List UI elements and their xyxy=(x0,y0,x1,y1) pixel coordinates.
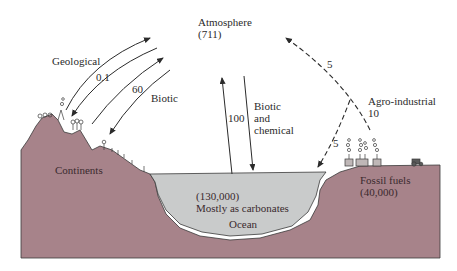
to-atmosphere-value: 5 xyxy=(327,58,333,70)
geological-value: 0.1 xyxy=(96,71,110,83)
agro-industrial-label: Agro-industrial 10 xyxy=(368,95,436,119)
biotic-chemical-line-2: and xyxy=(254,112,294,124)
biotic-chemical-label: Biotic and chemical xyxy=(254,100,294,136)
fossil-fuels-title: Fossil fuels xyxy=(360,174,410,186)
atmosphere-title: Atmosphere xyxy=(198,16,252,28)
biotic-chemical-line-1: Biotic xyxy=(254,100,294,112)
agro-industrial-to-ocean-arrow xyxy=(318,100,350,167)
ocean-note: Mostly as carbonates xyxy=(196,202,289,214)
carbon-cycle-diagram xyxy=(0,0,457,271)
atmosphere-value: (711) xyxy=(198,28,221,40)
biotic-chemical-line-3: chemical xyxy=(254,124,294,136)
continents-label: Continents xyxy=(55,164,103,176)
to-ocean-value: 5 xyxy=(333,137,339,149)
ocean-value: (130,000) xyxy=(196,190,239,202)
atmosphere-to-ocean-arrow xyxy=(244,76,253,170)
geological-label: Geological xyxy=(52,55,100,67)
agro-industrial-to-atmosphere-arrow xyxy=(286,38,370,130)
fossil-fuels-value: (40,000) xyxy=(360,186,398,198)
fossil-fuels-label: Fossil fuels (40,000) xyxy=(360,174,410,198)
agro-industrial-value: 10 xyxy=(368,107,379,119)
factory-icon xyxy=(345,139,381,166)
atmosphere-label: Atmosphere (711) xyxy=(198,16,252,40)
biotic-land-value: 60 xyxy=(132,83,143,95)
agro-industrial-title: Agro-industrial xyxy=(368,95,436,107)
biotic-chemical-value: 100 xyxy=(228,112,245,124)
ocean-label: Ocean xyxy=(229,218,257,230)
ocean-to-atmosphere-arrow xyxy=(222,78,232,174)
biotic-flux-up-arrow xyxy=(92,58,163,124)
biotic-land-label: Biotic xyxy=(151,92,178,104)
